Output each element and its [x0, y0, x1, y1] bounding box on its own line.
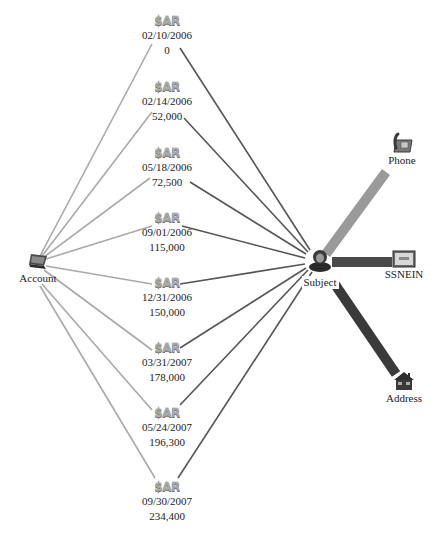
sar-date: 02/10/2006	[127, 28, 207, 43]
address-label: Address	[369, 392, 439, 405]
sar-badge-icon: $AR	[127, 341, 207, 355]
sar-badge-icon: $AR	[127, 480, 207, 494]
address-node[interactable]: Address	[369, 370, 439, 405]
house-icon	[392, 370, 416, 392]
sar-amount: 234,400	[127, 509, 207, 524]
sar-date: 02/14/2006	[127, 94, 207, 109]
ssnein-node[interactable]: SSNEIN	[369, 250, 439, 281]
phone-label: Phone	[367, 154, 437, 167]
account-node[interactable]: Account	[3, 252, 73, 285]
sar-amount: 150,000	[127, 305, 207, 320]
edge-subject-address	[332, 280, 396, 374]
sar-node[interactable]: $AR 02/14/2006 52,000	[127, 80, 207, 124]
sar-badge-icon: $AR	[127, 406, 207, 420]
sar-amount: 178,000	[127, 370, 207, 385]
subject-label: Subject	[302, 276, 339, 289]
sar-date: 12/31/2006	[127, 290, 207, 305]
sar-amount: 72,500	[127, 175, 207, 190]
sar-badge-icon: $AR	[127, 211, 207, 225]
sar-date: 09/01/2006	[127, 225, 207, 240]
sar-badge-icon: $AR	[127, 276, 207, 290]
sar-node[interactable]: $AR 05/24/2007 196,300	[127, 406, 207, 450]
account-label: Account	[3, 272, 73, 285]
edge-subject-phone	[326, 172, 386, 254]
sar-amount: 115,000	[127, 240, 207, 255]
id-card-icon	[392, 250, 416, 268]
telephone-icon	[390, 132, 414, 154]
sar-node[interactable]: $AR 12/31/2006 150,000	[127, 276, 207, 320]
sar-badge-icon: $AR	[127, 146, 207, 160]
link-analysis-diagram: Account Subject $AR 02/10/2006 0 $AR 02/…	[0, 0, 440, 540]
sar-badge-icon: $AR	[127, 14, 207, 28]
person-icon	[307, 248, 333, 272]
sar-date: 03/31/2007	[127, 355, 207, 370]
sar-amount: 0	[127, 43, 207, 58]
sar-node[interactable]: $AR 09/30/2007 234,400	[127, 480, 207, 524]
sar-date: 05/24/2007	[127, 420, 207, 435]
sar-date: 09/30/2007	[127, 494, 207, 509]
subject-node[interactable]: Subject	[285, 248, 355, 290]
sar-badge-icon: $AR	[127, 80, 207, 94]
sar-amount: 52,000	[127, 109, 207, 124]
sar-date: 05/18/2006	[127, 160, 207, 175]
sar-node[interactable]: $AR 02/10/2006 0	[127, 14, 207, 58]
ssnein-label: SSNEIN	[369, 268, 439, 281]
laptop-icon	[27, 252, 49, 272]
sar-node[interactable]: $AR 05/18/2006 72,500	[127, 146, 207, 190]
sar-node[interactable]: $AR 09/01/2006 115,000	[127, 211, 207, 255]
sar-amount: 196,300	[127, 435, 207, 450]
sar-node[interactable]: $AR 03/31/2007 178,000	[127, 341, 207, 385]
phone-node[interactable]: Phone	[367, 132, 437, 167]
